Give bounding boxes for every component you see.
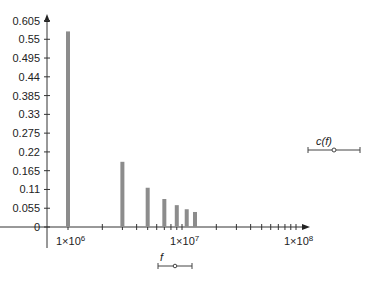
- bar: [175, 205, 179, 227]
- y-tick-label: 0.055: [12, 202, 40, 214]
- y-tick-label: 0.22: [19, 146, 40, 158]
- x-tick-label: 1×107: [170, 234, 200, 247]
- x-tick-label: 1×108: [284, 234, 314, 247]
- y-axis-label-text: c(f): [316, 135, 332, 147]
- bar: [146, 188, 150, 227]
- y-tick-label: 0.55: [19, 33, 40, 45]
- bar: [162, 199, 166, 227]
- y-tick-label: 0.495: [12, 52, 40, 64]
- spectrum-chart: 00.0550.110.1650.220.2750.330.3850.440.4…: [0, 0, 375, 282]
- y-axis: [44, 14, 50, 248]
- y-ticks: 00.0550.110.1650.220.2750.330.3850.440.4…: [12, 15, 50, 234]
- x-tick-label: 1×106: [56, 234, 86, 247]
- bar: [185, 209, 189, 227]
- y-tick-label: 0.165: [12, 165, 40, 177]
- y-tick-label: 0.275: [12, 127, 40, 139]
- bars: [66, 31, 197, 227]
- y-tick-label: 0.33: [19, 108, 40, 120]
- y-tick-label: 0.385: [12, 90, 40, 102]
- y-tick-label: 0.44: [19, 71, 40, 83]
- x-axis-label-text: f: [160, 251, 164, 263]
- x-axis-label: f: [158, 251, 192, 269]
- bar: [120, 162, 124, 227]
- bar: [66, 31, 70, 227]
- y-tick-label: 0: [34, 221, 40, 233]
- y-tick-label: 0.11: [19, 183, 40, 195]
- y-tick-label: 0.605: [12, 15, 40, 27]
- y-axis-label: c(f): [308, 135, 360, 153]
- bar: [193, 212, 197, 227]
